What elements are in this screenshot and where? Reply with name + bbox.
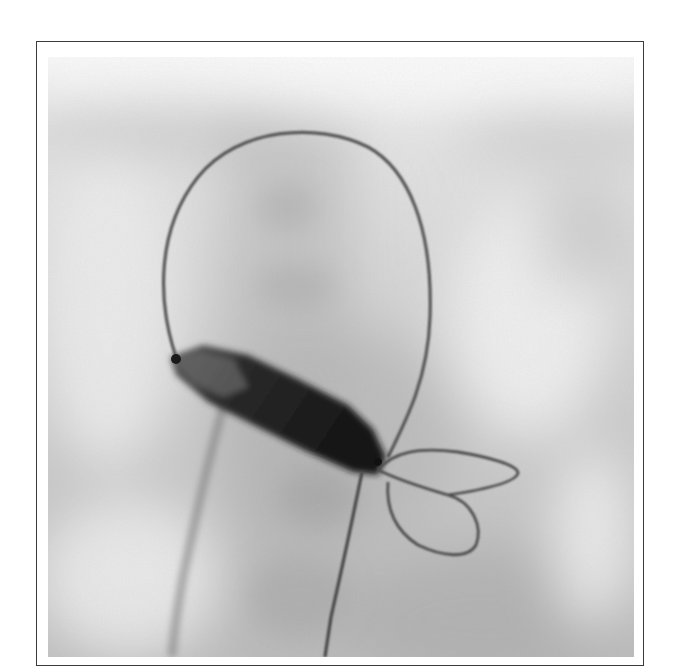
fluoroscopy-image (48, 57, 634, 657)
fluoroscopy-svg (48, 57, 634, 657)
balloon-marker-distal (374, 458, 382, 466)
balloon-marker-proximal (171, 354, 181, 364)
